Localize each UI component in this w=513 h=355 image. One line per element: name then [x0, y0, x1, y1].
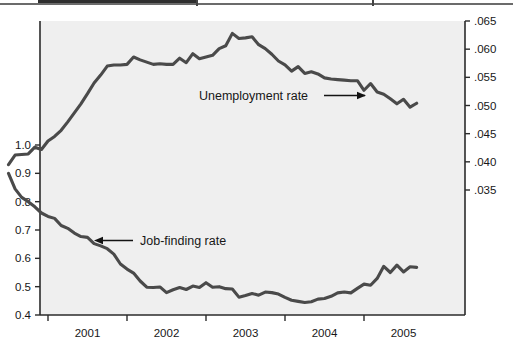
right-tick-label: .050: [474, 100, 496, 112]
x-tick-label: 2004: [312, 327, 338, 339]
line-chart: 1.00.90.80.70.60.50.4 .065.060.055.050.0…: [0, 0, 513, 355]
right-tick-label: .055: [474, 71, 496, 83]
x-tick-label: 2002: [154, 327, 180, 339]
left-tick-label: 1.0: [15, 139, 31, 151]
x-tick-label: 2003: [233, 327, 259, 339]
left-tick-label: 0.7: [15, 224, 31, 236]
right-tick-label: .040: [474, 156, 496, 168]
x-tick-label: 2001: [75, 327, 101, 339]
left-tick-label: 0.5: [15, 281, 31, 293]
chart-figure: 1.00.90.80.70.60.50.4 .065.060.055.050.0…: [0, 0, 513, 355]
left-tick-label: 0.6: [15, 252, 31, 264]
annotation-label-unemployment-rate: Unemployment rate: [199, 89, 308, 103]
right-axis-tick-labels: .065.060.055.050.045.040.035: [474, 15, 496, 196]
left-tick-label: 0.4: [15, 309, 32, 321]
left-axis-tick-labels: 1.00.90.80.70.60.50.4: [15, 139, 32, 321]
right-tick-label: .035: [474, 184, 496, 196]
annotation-label-job-finding-rate: Job-finding rate: [140, 234, 226, 248]
x-axis-tick-labels: 20012002200320042005: [75, 327, 417, 339]
x-tick-label: 2005: [391, 327, 417, 339]
right-tick-label: .060: [474, 43, 496, 55]
right-tick-label: .065: [474, 15, 496, 27]
right-tick-label: .045: [474, 128, 496, 140]
x-axis-ticks: [48, 315, 364, 321]
left-tick-label: 0.9: [15, 167, 31, 179]
